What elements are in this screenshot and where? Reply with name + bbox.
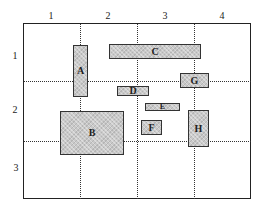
- block-h: H: [188, 110, 209, 147]
- block-f: F: [141, 120, 162, 135]
- block-c: C: [109, 44, 201, 59]
- block-f-label: F: [148, 123, 154, 133]
- block-h-label: H: [195, 124, 203, 134]
- grid-line-horizontal-2: [24, 141, 251, 142]
- block-c-label: C: [151, 47, 158, 57]
- block-b-label: B: [89, 128, 96, 138]
- block-g: G: [180, 73, 209, 88]
- block-e: E: [145, 103, 180, 111]
- grid-line-horizontal-1: [24, 81, 251, 82]
- column-label-1: 1: [49, 11, 54, 21]
- column-label-4: 4: [220, 11, 225, 21]
- column-label-2: 2: [106, 11, 111, 21]
- block-d: D: [117, 86, 149, 96]
- row-label-3: 3: [14, 163, 19, 173]
- block-a-label: A: [77, 66, 84, 76]
- row-label-2: 2: [13, 105, 18, 115]
- block-e-label: E: [160, 103, 165, 111]
- block-d-label: D: [129, 86, 136, 96]
- block-g-label: G: [191, 76, 199, 86]
- column-label-3: 3: [163, 11, 168, 21]
- block-b: B: [60, 111, 124, 155]
- block-a: A: [73, 45, 88, 97]
- row-label-1: 1: [13, 51, 18, 61]
